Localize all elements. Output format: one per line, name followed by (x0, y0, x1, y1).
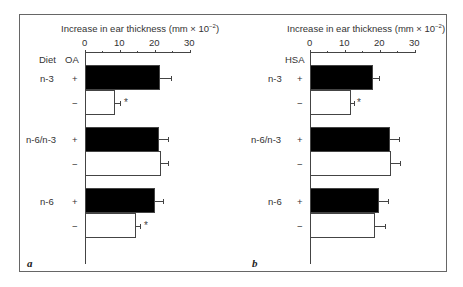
tick-label-30: 30 (184, 38, 195, 48)
col-header-treatment: OA (65, 55, 79, 65)
error-bar (390, 139, 399, 140)
bar-n6-plus (85, 188, 155, 213)
error-cap (168, 161, 169, 166)
diet-label: n-6 (40, 197, 54, 207)
bar-n3-plus (310, 65, 373, 90)
error-cap (171, 76, 172, 81)
bar-n6n3-minus (310, 151, 391, 176)
significance-star: * (144, 220, 148, 231)
tick-label-10: 10 (114, 38, 125, 48)
error-cap (388, 199, 389, 204)
x-axis (310, 52, 416, 53)
panel-label-b: b (252, 257, 258, 269)
bar-n6-minus (85, 213, 136, 238)
tick (172, 51, 173, 53)
bar-n6n3-plus (310, 127, 390, 152)
x-axis-title: Increase in ear thickness (mm × 10−2) (287, 23, 445, 34)
sign-label: + (297, 74, 303, 84)
col-header-treatment: HSA (285, 55, 305, 65)
tick (155, 50, 156, 53)
sign-label: − (297, 160, 303, 170)
sign-label: − (297, 99, 303, 109)
diet-label: n-6/n-3 (26, 135, 56, 145)
tick (362, 51, 363, 53)
tick-label-20: 20 (374, 38, 385, 48)
error-bar (391, 163, 400, 164)
tick (415, 50, 416, 53)
error-cap (385, 224, 386, 229)
bar-n6-minus (310, 213, 375, 238)
sign-label: + (72, 74, 78, 84)
tick (190, 50, 191, 53)
diet-label: n-6 (268, 197, 282, 207)
sign-label: + (297, 135, 303, 145)
tick (380, 50, 381, 53)
tick (327, 51, 328, 53)
diet-label: n-6/n-3 (251, 135, 281, 145)
bar-n3-minus (310, 90, 351, 115)
bar-n3-minus (85, 90, 115, 115)
bar-n6-plus (310, 188, 379, 213)
tick-label-20: 20 (149, 38, 160, 48)
sign-label: − (72, 99, 78, 109)
bar-n3-plus (85, 65, 160, 90)
col-header-diet: Diet (39, 55, 56, 65)
significance-star: * (357, 97, 361, 108)
error-bar (155, 201, 163, 202)
tick-label-0: 0 (307, 38, 312, 48)
error-cap (399, 137, 400, 142)
sign-label: − (72, 160, 78, 170)
tick (397, 51, 398, 53)
error-cap (140, 224, 141, 229)
diet-label: n-3 (268, 74, 282, 84)
error-cap (163, 199, 164, 204)
tick-label-30: 30 (409, 38, 420, 48)
bar-n6n3-plus (85, 127, 159, 152)
error-cap (379, 76, 380, 81)
error-cap (354, 101, 355, 106)
x-axis-title: Increase in ear thickness (mm × 10−2) (61, 23, 219, 34)
tick-label-0: 0 (82, 38, 87, 48)
error-bar (379, 201, 388, 202)
error-bar (159, 139, 168, 140)
error-cap (168, 137, 169, 142)
sign-label: − (297, 222, 303, 232)
tick (345, 50, 346, 53)
error-cap (120, 101, 121, 106)
error-bar (375, 226, 385, 227)
tick (120, 50, 121, 53)
sign-label: + (72, 135, 78, 145)
diet-label: n-3 (40, 74, 54, 84)
tick (102, 51, 103, 53)
tick-label-10: 10 (339, 38, 350, 48)
tick (137, 51, 138, 53)
error-cap (400, 161, 401, 166)
bar-n6n3-minus (85, 151, 161, 176)
sign-label: + (72, 197, 78, 207)
significance-star: * (124, 97, 128, 108)
sign-label: + (297, 197, 303, 207)
sign-label: − (72, 222, 78, 232)
panel-label-a: a (27, 257, 33, 269)
